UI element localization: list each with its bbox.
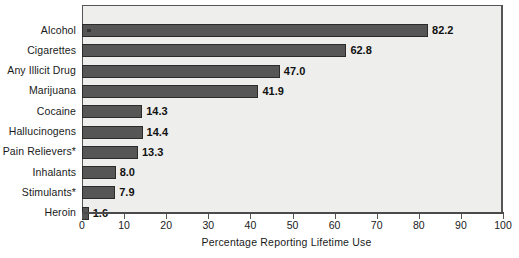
y-axis-label: Hallucinogens [0,126,76,137]
x-axis-tick-label: 20 [151,219,181,232]
y-axis-labels: AlcoholCigarettesAny Illicit DrugMarijua… [0,5,76,213]
bar-value-label: 13.3 [142,145,163,159]
bar-row: 47.0 [82,65,503,78]
bar [82,65,280,78]
scan-artifact-speck [87,29,91,32]
bar-value-label: 47.0 [284,64,305,78]
x-axis-tick-label: 50 [278,219,308,232]
bar-row: 8.0 [82,166,503,179]
bar [82,146,138,159]
bar-row: 7.9 [82,186,503,199]
bar [82,44,346,57]
x-axis-tick-label: 10 [109,219,139,232]
bar [82,85,258,98]
x-axis-tick-label: 60 [320,219,350,232]
bar-row: 62.8 [82,44,503,57]
y-axis-label: Any Illicit Drug [0,65,76,76]
bar-row: 82.2 [82,24,503,37]
y-axis-label: Marijuana [0,85,76,96]
x-axis-tick-label: 0 [67,219,97,232]
x-axis-tick-label: 70 [362,219,392,232]
x-axis-tick-label: 80 [404,219,434,232]
x-axis-title: Percentage Reporting Lifetime Use [0,236,519,248]
bar-value-label: 8.0 [120,165,135,179]
x-axis-tick-label: 90 [446,219,476,232]
bar-value-label: 14.4 [147,125,168,139]
bar-row: 14.3 [82,105,503,118]
bar-value-label: 7.9 [119,185,134,199]
bar-value-label: 14.3 [146,104,167,118]
y-axis-label: Alcohol [0,25,76,36]
bar-row: 13.3 [82,146,503,159]
bar [82,105,142,118]
bar-chart: AlcoholCigarettesAny Illicit DrugMarijua… [0,0,519,258]
bar [82,166,116,179]
bar-value-label: 41.9 [262,84,283,98]
y-axis-label: Stimulants* [0,187,76,198]
y-axis-label: Inhalants [0,167,76,178]
bar-value-label: 62.8 [350,43,371,57]
bar [82,126,143,139]
x-axis-tick-label: 30 [193,219,223,232]
y-axis-label: Pain Relievers* [0,146,76,157]
bar [82,24,428,37]
y-axis-label: Heroin [0,207,76,218]
y-axis-label: Cocaine [0,106,76,117]
bar-value-label: 82.2 [432,23,453,37]
x-axis-tick-label: 100 [488,219,518,232]
bar-row: 41.9 [82,85,503,98]
x-axis-tick-label: 40 [235,219,265,232]
bar [82,186,115,199]
y-axis-label: Cigarettes [0,45,76,56]
bar-row: 14.4 [82,126,503,139]
